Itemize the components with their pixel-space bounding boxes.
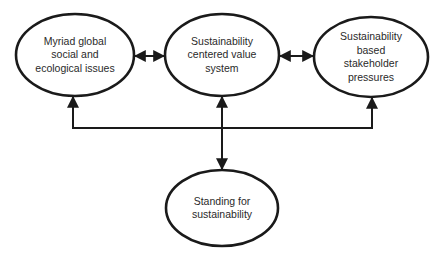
node-stakeholder-label: Sustainability based stakeholder pressur…	[316, 22, 426, 92]
node-issues-label: Myriad global social and ecological issu…	[18, 20, 132, 90]
node-standing-label: Standing for sustainability	[167, 175, 277, 241]
node-value-system-label: Sustainability centered value system	[167, 20, 277, 90]
